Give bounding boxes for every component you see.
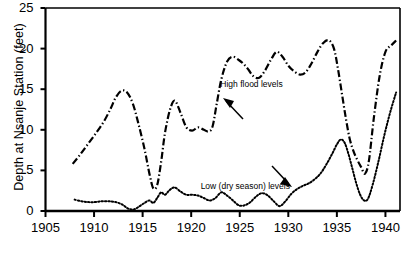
y-tick-label-0: 0 <box>8 203 34 218</box>
annotation-high-flood-levels: High flood levels <box>220 79 282 89</box>
x-tick-label-1915: 1915 <box>120 220 166 235</box>
chart-plot-area <box>0 0 413 254</box>
annotation-low-dry-season-levels: Low (dry season) levels <box>201 181 290 191</box>
flood-depth-chart: Depth at Nsanje Station (feet) 051015202… <box>0 0 413 254</box>
x-tick-label-1925: 1925 <box>217 220 263 235</box>
y-tick-label-25: 25 <box>8 0 34 15</box>
y-tick-label-20: 20 <box>8 41 34 56</box>
y-tick-label-5: 5 <box>8 162 34 177</box>
x-tick-label-1910: 1910 <box>71 220 117 235</box>
series-line-high-flood <box>73 40 396 189</box>
y-tick-label-15: 15 <box>8 81 34 96</box>
x-tick-label-1905: 1905 <box>23 220 69 235</box>
high-flood-arrow-head <box>223 98 234 108</box>
x-tick-label-1940: 1940 <box>362 220 408 235</box>
x-tick-label-1930: 1930 <box>265 220 311 235</box>
x-tick-label-1920: 1920 <box>168 220 214 235</box>
y-tick-label-10: 10 <box>8 122 34 137</box>
x-tick-label-1935: 1935 <box>314 220 360 235</box>
annotation-arrows <box>223 98 292 187</box>
